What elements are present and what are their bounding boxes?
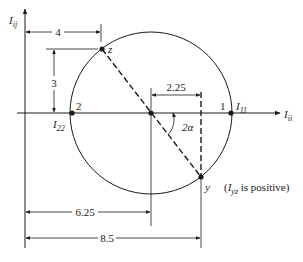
label-z: z [107, 43, 113, 55]
note-iyz-positive: (Iyz is positive) [224, 181, 290, 196]
dimension-4 [26, 24, 101, 42]
mohr-circle-diagram: Iij Iii z y 1 I11 2 I22 2α 4 [0, 0, 303, 262]
dimension-4-label: 4 [55, 26, 61, 38]
label-1: 1 [220, 100, 226, 112]
dimension-8-5-label: 8.5 [100, 232, 114, 244]
angle-label: 2α [182, 121, 194, 133]
point-y [198, 174, 203, 179]
dimension-6-25-label: 6.25 [75, 206, 95, 218]
point-z [99, 46, 104, 51]
point-1 [228, 110, 233, 115]
label-2: 2 [76, 100, 82, 112]
horizontal-axis-label: Iii [283, 108, 292, 123]
label-y: y [204, 181, 210, 193]
point-2 [69, 110, 74, 115]
point-center [148, 110, 153, 115]
angle-arc [168, 113, 174, 135]
dimension-3-label: 3 [51, 77, 57, 89]
vertical-axis-label: Iij [8, 14, 18, 29]
label-I22: I22 [52, 118, 65, 133]
dimension-2-25-label: 2.25 [166, 81, 186, 93]
